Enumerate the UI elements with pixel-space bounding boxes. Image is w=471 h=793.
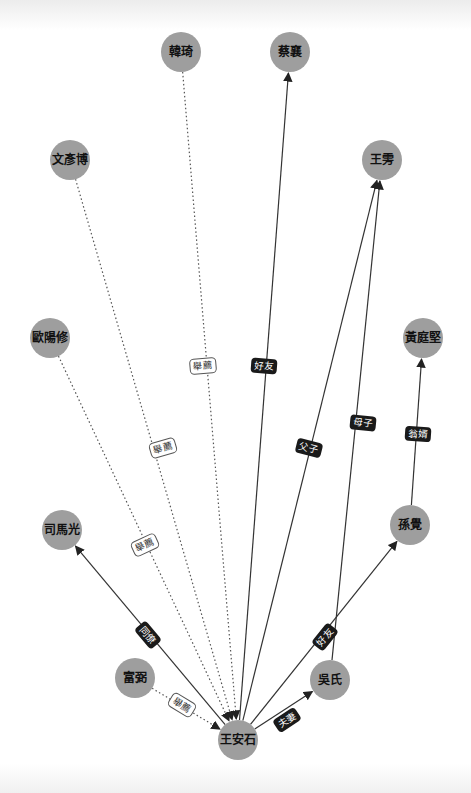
nodes-layer: 王安石韓琦蔡襄文彥博王雱歐陽修黃庭堅司馬光孫覺富弼吳氏 [30,32,443,760]
node-label: 王安石 [220,732,256,747]
edge-label: 母子 [349,414,376,432]
edge-han_qi-wang_anshi [183,72,237,719]
relationship-graph: 舉薦舉薦舉薦舉薦好友同僚父子夫妻好友母子翁婿 王安石韓琦蔡襄文彥博王雱歐陽修黃庭… [0,0,471,793]
edge-label-text: 翁婿 [408,428,429,440]
edge-labels-layer: 舉薦舉薦舉薦舉薦好友同僚父子夫妻好友母子翁婿 [130,357,431,733]
edge-label-text: 舉薦 [193,360,214,373]
edge-wang_anshi-cai_xiang [240,73,289,720]
edge-label: 翁婿 [405,426,432,443]
node-huang_tingjian[interactable]: 黃庭堅 [403,318,443,358]
node-wen_yanbo[interactable]: 文彥博 [50,140,90,180]
node-label: 文彥博 [52,152,88,167]
node-label: 司馬光 [44,522,80,537]
edge-label: 舉薦 [148,437,177,459]
node-label: 富弼 [123,670,147,685]
node-label: 吳氏 [317,672,342,687]
node-wu_shi[interactable]: 吳氏 [310,660,350,700]
edge-label-text: 好友 [254,360,275,372]
node-label: 王雱 [370,153,394,167]
edge-label-text: 母子 [353,417,374,430]
edge-label: 好友 [250,358,277,375]
node-ouyang_xiu[interactable]: 歐陽修 [30,318,70,358]
node-label: 歐陽修 [32,330,69,345]
edge-label: 舉薦 [130,533,160,558]
node-wang_anshi[interactable]: 王安石 [218,720,258,760]
node-fu_bi[interactable]: 富弼 [115,658,155,698]
node-sima_guang[interactable]: 司馬光 [42,510,82,550]
node-label: 孫覺 [398,517,422,532]
edge-label: 父子 [295,438,324,459]
edge-label: 同僚 [134,620,162,650]
node-wang_pang[interactable]: 王雱 [362,140,402,180]
node-han_qi[interactable]: 韓琦 [161,32,201,72]
edge-label: 舉薦 [189,357,216,374]
edge-label: 夫妻 [272,707,302,734]
node-label: 黃庭堅 [404,330,441,345]
edge-label: 舉薦 [167,692,197,718]
node-sun_jue[interactable]: 孫覺 [390,505,430,545]
node-label: 蔡襄 [277,44,303,59]
node-cai_xiang[interactable]: 蔡襄 [270,32,310,72]
node-label: 韓琦 [169,44,193,59]
